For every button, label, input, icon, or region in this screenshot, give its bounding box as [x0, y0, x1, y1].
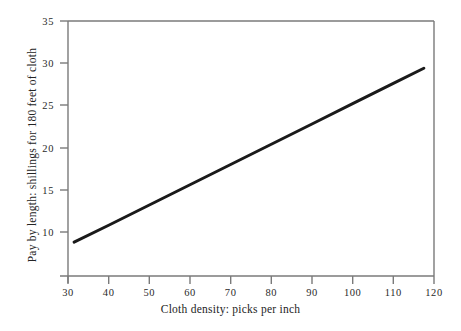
x-tick-label-70: 70: [225, 287, 237, 298]
x-tick-label-60: 60: [184, 287, 196, 298]
x-tick-label-100: 100: [344, 287, 362, 298]
x-tick-label-30: 30: [62, 287, 74, 298]
x-tick-label-50: 50: [143, 287, 155, 298]
x-tick-label-90: 90: [306, 287, 318, 298]
y-axis-title: Pay by length: shillings for 180 feet of…: [26, 25, 38, 285]
x-tick-label-110: 110: [385, 287, 402, 298]
x-axis-title: Cloth density: picks per inch: [0, 303, 461, 315]
chart-plot-area: [0, 0, 461, 331]
x-tick-label-120: 120: [425, 287, 443, 298]
x-tick-marks: [68, 276, 434, 284]
x-tick-label-40: 40: [103, 287, 115, 298]
x-tick-label-80: 80: [265, 287, 277, 298]
y-tick-marks: [60, 21, 68, 232]
chart-figure: 35 30 25 20 15 10 30 40 50 60 70 80 90 1…: [0, 0, 461, 331]
data-line-pay-by-length: [74, 68, 424, 242]
